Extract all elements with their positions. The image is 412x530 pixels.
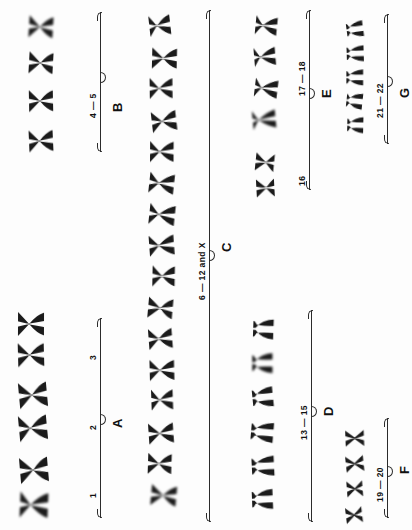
chromosome xyxy=(345,478,364,501)
chromosome xyxy=(252,311,276,346)
chromosome-number-19-20: 19 — 20 xyxy=(375,467,385,502)
group-b-brace xyxy=(96,12,105,152)
chromosome xyxy=(344,452,366,475)
chromosome xyxy=(250,104,278,135)
chromosome xyxy=(249,415,276,449)
chromosome-number-1: 1 xyxy=(88,493,98,498)
group-label-f: F xyxy=(397,466,412,474)
chromosome xyxy=(252,71,280,106)
chromosome xyxy=(345,42,365,65)
group-label-g: G xyxy=(397,87,412,98)
chromosome xyxy=(344,17,365,41)
chromosome-number-17-18: 17 — 18 xyxy=(297,61,307,96)
chromosome xyxy=(251,347,273,380)
chromosome xyxy=(253,148,276,176)
group-a-brace xyxy=(96,318,105,518)
chromosome-number-6-12-and-x: 6 — 12 and X xyxy=(197,242,207,300)
chromosome xyxy=(344,90,364,113)
chromosome xyxy=(344,504,365,526)
group-label-e: E xyxy=(319,89,334,98)
chromosome xyxy=(250,483,274,517)
chromosome xyxy=(252,41,278,72)
chromosome xyxy=(345,67,364,89)
chromosome xyxy=(18,476,50,530)
chromosome xyxy=(253,8,280,43)
chromosome xyxy=(27,117,55,164)
chromosome-number-4-5: 4 — 5 xyxy=(88,93,98,118)
chromosome-number-2: 2 xyxy=(88,425,98,430)
chromosome-number-13-15: 13 — 15 xyxy=(299,405,309,440)
group-label-b: B xyxy=(110,102,125,112)
group-e-brace xyxy=(305,10,314,190)
chromosome xyxy=(16,330,45,381)
chromosome-number-3: 3 xyxy=(88,355,98,360)
group-label-a: A xyxy=(110,418,125,428)
chromosome-number-16: 16 xyxy=(297,176,307,186)
chromosome xyxy=(16,400,51,457)
group-label-c: C xyxy=(219,242,234,252)
group-label-d: D xyxy=(321,406,336,416)
group-g-brace xyxy=(383,14,392,144)
chromosome-number-21-22: 21 — 22 xyxy=(375,83,385,118)
chromosome xyxy=(255,174,276,202)
chromosome xyxy=(250,380,276,415)
chromosome xyxy=(344,427,365,449)
chromosome xyxy=(148,473,179,519)
karyotype-figure: 1 2 3 A 4 — 5 B 6 — 12 and X C 13 — 15 D… xyxy=(0,0,412,530)
chromosome xyxy=(250,449,276,484)
chromosome xyxy=(346,114,365,137)
